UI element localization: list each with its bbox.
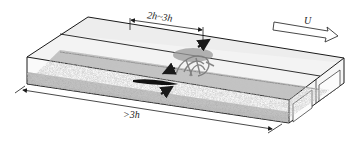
flow-direction-arrow: U xyxy=(273,15,338,42)
flow-label: U xyxy=(304,15,312,26)
length-label: >3h xyxy=(123,109,140,120)
flume-diagram: 2h~3h >3h U xyxy=(0,0,353,143)
spacing-label: 2h~3h xyxy=(147,9,174,23)
